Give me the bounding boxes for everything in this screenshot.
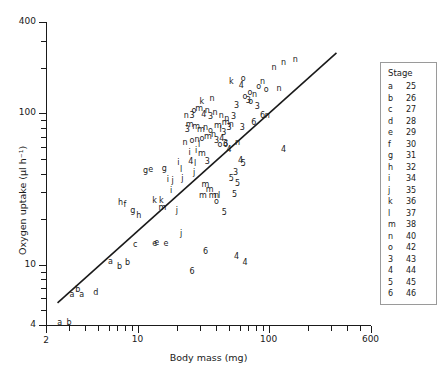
data-point-marker: 3 <box>240 124 245 132</box>
data-point-marker: 3 <box>234 102 239 110</box>
legend-symbol: 6 <box>388 288 406 300</box>
legend-symbol: h <box>388 162 406 174</box>
legend-symbol: n <box>388 231 406 243</box>
data-point-marker: i <box>167 176 169 184</box>
legend-symbol: f <box>388 139 406 151</box>
data-point-marker: a <box>69 291 74 299</box>
data-point-marker: k <box>229 78 234 86</box>
data-point-marker: h <box>118 199 123 207</box>
data-point-marker: i <box>170 187 172 195</box>
x-tick-minor <box>69 326 70 331</box>
legend-symbol: 5 <box>388 277 406 289</box>
data-point-marker: n <box>182 139 187 147</box>
legend-stage-value: 37 <box>406 208 426 220</box>
x-tick-major <box>138 326 139 333</box>
legend-symbol: m <box>388 219 406 231</box>
legend-row: 545 <box>381 277 436 289</box>
x-tick-minor <box>117 326 118 331</box>
data-point-marker: 5 <box>235 180 240 188</box>
data-point-marker: m <box>199 192 207 200</box>
legend-stage-value: 30 <box>406 139 426 151</box>
data-point-marker: 4 <box>281 146 286 154</box>
legend-box: Stage a25b26c27d28e29f30g31h32i34j35k36l… <box>380 62 437 305</box>
x-tick-minor <box>248 326 249 331</box>
legend-row: c27 <box>381 104 436 116</box>
data-point-marker: o <box>264 86 269 94</box>
legend-stage-value: 45 <box>406 277 426 289</box>
y-axis-title: Oxygen uptake (µl h⁻¹) <box>17 146 28 255</box>
x-tick-label: 2 <box>26 335 66 345</box>
data-point-marker: c <box>133 241 137 249</box>
legend-stage-value: 40 <box>406 231 426 243</box>
x-tick-minor <box>331 326 332 331</box>
legend-row: k36 <box>381 196 436 208</box>
data-point-marker: a <box>108 258 113 266</box>
x-tick-minor <box>360 326 361 331</box>
data-point-marker: b <box>117 263 122 271</box>
legend-symbol: g <box>388 150 406 162</box>
legend-symbol: 3 <box>388 254 406 266</box>
data-point-marker: n <box>281 59 286 67</box>
y-tick-minor <box>41 137 46 138</box>
legend-row: e29 <box>381 127 436 139</box>
data-point-marker: i <box>189 149 191 157</box>
oxygen-uptake-scatter-figure: 410100400210100600 aabadbabbceeghhfgegik… <box>0 0 442 375</box>
data-point-marker: 3 <box>221 129 226 137</box>
data-point-marker: m <box>159 204 167 212</box>
data-point-marker: a <box>57 319 62 327</box>
x-axis-title: Body mass (mg) <box>46 352 371 363</box>
data-point-marker: n <box>271 64 276 72</box>
data-point-marker: 3 <box>205 158 210 166</box>
legend-stage-value: 34 <box>406 173 426 185</box>
x-tick-minor <box>308 326 309 331</box>
legend-symbol: o <box>388 242 406 254</box>
data-point-marker: 6 <box>251 119 256 127</box>
x-tick-major <box>269 326 270 333</box>
data-point-marker: f <box>123 201 126 209</box>
y-tick-label: 400 <box>4 16 36 26</box>
y-tick-minor <box>41 174 46 175</box>
legend-row: o42 <box>381 242 436 254</box>
data-point-marker: 3 <box>185 126 190 134</box>
data-point-marker: 4 <box>201 111 206 119</box>
legend-row: d28 <box>381 116 436 128</box>
y-tick-major <box>39 22 46 23</box>
x-tick-minor <box>109 326 110 331</box>
x-tick-minor <box>347 326 348 331</box>
legend-stage-value: 29 <box>406 127 426 139</box>
legend-symbol: j <box>388 185 406 197</box>
data-point-marker: 5 <box>232 191 237 199</box>
data-point-marker: m <box>204 133 212 141</box>
x-tick-minor <box>240 326 241 331</box>
legend-symbol: b <box>388 93 406 105</box>
legend-row: a25 <box>381 81 436 93</box>
data-point-marker: n <box>265 112 270 120</box>
x-tick-minor <box>177 326 178 331</box>
data-point-marker: 3 <box>233 169 238 177</box>
data-point-marker: 4 <box>188 158 193 166</box>
data-point-marker: n <box>235 139 240 147</box>
data-point-marker: a <box>79 291 84 299</box>
legend-symbol: 4 <box>388 265 406 277</box>
y-tick-minor <box>41 298 46 299</box>
legend-stage-value: 36 <box>406 196 426 208</box>
x-tick-minor <box>98 326 99 331</box>
legend-stage-value: 31 <box>406 150 426 162</box>
data-point-marker: 5 <box>241 160 246 168</box>
data-point-marker: n <box>224 115 229 123</box>
data-point-marker: b <box>67 319 72 327</box>
y-tick-minor <box>41 279 46 280</box>
y-tick-minor <box>41 147 46 148</box>
legend-entries: a25b26c27d28e29f30g31h32i34j35k36l37m38n… <box>381 81 436 300</box>
y-tick-major <box>39 325 46 326</box>
data-point-marker: n <box>219 112 224 120</box>
data-point-marker: i <box>195 147 197 155</box>
legend-row: 444 <box>381 265 436 277</box>
x-tick-minor <box>216 326 217 331</box>
data-point-marker: b <box>125 259 130 267</box>
x-tick-label: 10 <box>118 334 158 344</box>
x-tick-major <box>46 326 47 333</box>
y-tick-minor <box>41 120 46 121</box>
data-point-marker: 4 <box>234 253 239 261</box>
legend-row: j35 <box>381 185 436 197</box>
